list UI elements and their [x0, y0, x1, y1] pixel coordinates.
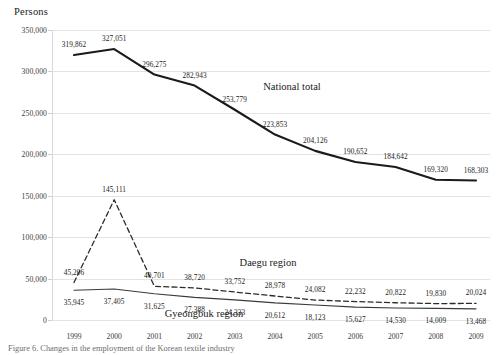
y-tick-label: 50,000 — [26, 274, 47, 283]
y-tick-label: 100,000 — [22, 233, 47, 242]
data-point-label: 223,853 — [263, 119, 287, 128]
data-point-label: 296,275 — [142, 59, 166, 68]
data-point-label: 24,082 — [305, 285, 326, 294]
data-point-label: 169,320 — [424, 164, 448, 173]
data-point-label: 15,627 — [345, 315, 366, 324]
x-tick-label: 2000 — [107, 332, 122, 341]
y-tick-mark — [48, 320, 52, 321]
data-point-label: 282,943 — [182, 70, 206, 79]
data-point-label: 22,232 — [345, 286, 366, 295]
x-tick-label: 2006 — [348, 332, 363, 341]
x-tick-label: 1999 — [66, 332, 81, 341]
series-annotation: Gyeongbuk region — [165, 308, 243, 319]
y-tick-label: 250,000 — [22, 108, 47, 117]
data-point-label: 20,024 — [466, 288, 487, 297]
y-axis-title: Persons — [14, 6, 48, 17]
data-point-label: 184,642 — [383, 152, 407, 161]
series-line — [74, 49, 476, 181]
data-point-label: 19,830 — [425, 288, 446, 297]
data-point-label: 14,530 — [385, 315, 406, 324]
y-tick-label: 300,000 — [22, 67, 47, 76]
data-point-label: 28,978 — [265, 280, 286, 289]
y-tick-label: 200,000 — [22, 150, 47, 159]
series-annotation: National total — [263, 81, 320, 92]
x-tick-label: 2003 — [227, 332, 242, 341]
data-point-label: 14,009 — [425, 316, 446, 325]
data-point-label: 168,303 — [464, 165, 488, 174]
data-point-label: 20,822 — [385, 287, 406, 296]
series-lines — [52, 30, 490, 320]
figure-container: Persons 050,000100,000150,000200,000250,… — [0, 0, 502, 355]
data-point-label: 20,612 — [265, 310, 286, 319]
x-tick-label: 2001 — [147, 332, 162, 341]
data-point-label: 45,206 — [64, 267, 85, 276]
data-point-label: 18,123 — [305, 312, 326, 321]
gridline — [52, 320, 490, 321]
x-tick-label: 2005 — [308, 332, 323, 341]
data-point-label: 319,862 — [62, 39, 86, 48]
data-point-label: 38,720 — [184, 272, 205, 281]
figure-caption: Figure 6. Changes in the employment of t… — [8, 344, 235, 353]
data-point-label: 190,652 — [343, 147, 367, 156]
x-tick-label: 2008 — [428, 332, 443, 341]
data-point-label: 37,405 — [104, 297, 125, 306]
series-annotation: Daegu region — [240, 257, 297, 268]
plot-area: 050,000100,000150,000200,000250,000300,0… — [52, 30, 490, 320]
data-point-label: 31,625 — [144, 301, 165, 310]
x-tick-label: 2004 — [267, 332, 282, 341]
y-tick-label: 350,000 — [22, 26, 47, 35]
data-point-label: 13,468 — [466, 316, 487, 325]
data-point-label: 40,701 — [144, 271, 165, 280]
y-tick-label: 150,000 — [22, 191, 47, 200]
data-point-label: 253,779 — [223, 94, 247, 103]
series-line — [74, 289, 476, 309]
x-tick-label: 2009 — [468, 332, 483, 341]
x-tick-label: 2002 — [187, 332, 202, 341]
y-tick-label: 0 — [43, 316, 47, 325]
data-point-label: 204,126 — [303, 135, 327, 144]
data-point-label: 327,051 — [102, 34, 126, 43]
data-point-label: 145,111 — [102, 184, 126, 193]
data-point-label: 33,752 — [224, 277, 245, 286]
data-point-label: 35,945 — [64, 298, 85, 307]
x-tick-label: 2007 — [388, 332, 403, 341]
